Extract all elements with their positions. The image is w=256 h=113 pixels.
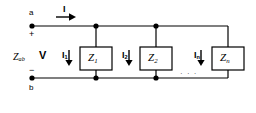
impedance-1-subscript: 1 [94,57,97,64]
branch-1-current-subscript: 1 [65,54,68,60]
terminal-b-label: b [29,84,33,92]
branch-1-bottom-node [93,75,98,80]
branch-2-bottom-node [153,75,158,80]
terminal-a-label: a [29,9,33,17]
source-current-symbol: I [63,4,66,14]
equivalent-impedance-label: Zab [13,52,25,63]
impedance-2-label: Z2 [148,52,158,64]
branch-2-current-subscript: 2 [125,54,128,60]
branch-n-current-subscript: n [197,54,200,60]
branch-n-current-label: In [194,51,200,61]
impedance-2-subscript: 2 [154,57,157,64]
branch-2-top-node [153,23,158,28]
equivalent-impedance-subscript: ab [19,55,25,62]
source-current-label: I [63,5,66,14]
branch-1-current-label: I1 [62,51,68,61]
polarity-minus-label: − [29,66,34,75]
impedance-n-subscript: n [226,57,229,64]
terminal-a-node [29,23,34,28]
terminal-b-node [29,75,34,80]
continuation-ellipsis: · · · [180,70,197,78]
polarity-plus-label: + [29,30,34,39]
branch-1-top-node [93,23,98,28]
branch-2-current-label: I2 [122,51,128,61]
impedance-n-label: Zn [220,52,230,64]
circuit-diagram-canvas: a + − b Zab V I I1 I2 In Z1 Z2 Zn · · · [0,0,256,113]
source-current-arrow-icon [56,13,76,21]
voltage-label: V [39,50,46,61]
impedance-1-label: Z1 [88,52,98,64]
